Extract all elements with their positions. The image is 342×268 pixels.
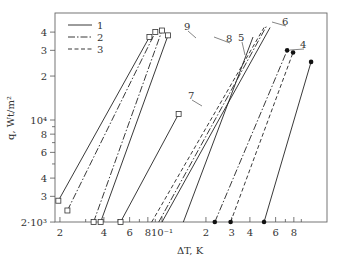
svg-text:7: 7	[188, 90, 194, 101]
svg-text:2: 2	[57, 227, 63, 238]
series-line	[94, 31, 162, 223]
svg-text:8: 8	[226, 33, 232, 44]
svg-text:3: 3	[41, 191, 47, 202]
series-line	[162, 28, 270, 223]
svg-text:2: 2	[97, 32, 103, 43]
svg-text:4: 4	[101, 227, 107, 238]
svg-text:6: 6	[41, 147, 47, 158]
svg-text:9: 9	[184, 21, 190, 32]
svg-text:6: 6	[126, 227, 132, 238]
svg-text:3: 3	[97, 44, 103, 55]
svg-text:10⁴: 10⁴	[30, 115, 47, 126]
svg-text:10⁻¹: 10⁻¹	[151, 227, 173, 238]
series-line	[152, 28, 264, 223]
y-axis-label: q, Wt/m²	[5, 96, 16, 140]
series-line	[121, 114, 179, 222]
svg-text:4: 4	[300, 39, 306, 50]
svg-text:2: 2	[41, 71, 47, 82]
svg-text:2·10³: 2·10³	[21, 217, 47, 228]
series-line	[264, 62, 311, 222]
legend: 123	[68, 20, 103, 55]
series-line	[215, 50, 287, 222]
data-lines	[56, 26, 314, 224]
svg-text:5: 5	[238, 32, 244, 43]
svg-text:2: 2	[203, 227, 209, 238]
svg-text:6: 6	[272, 227, 278, 238]
svg-text:3: 3	[228, 227, 234, 238]
svg-text:3: 3	[41, 45, 47, 56]
x-axis-label: ΔT, K	[177, 245, 204, 256]
chart: 246810⁻¹23468 2·10³346810⁴234 123 987564…	[0, 0, 342, 268]
svg-text:4: 4	[41, 173, 47, 184]
series-line	[231, 52, 293, 222]
series-line	[67, 32, 155, 210]
plot-frame	[55, 13, 327, 222]
svg-text:8: 8	[291, 227, 297, 238]
svg-text:8: 8	[41, 129, 47, 140]
svg-text:4: 4	[247, 227, 253, 238]
y-axis-ticks: 2·10³346810⁴234	[21, 27, 55, 228]
annotations: 987564	[184, 16, 306, 106]
series-line	[58, 37, 149, 201]
svg-text:1: 1	[97, 20, 103, 31]
series-line	[159, 26, 267, 222]
series-line	[183, 37, 253, 222]
svg-text:4: 4	[41, 27, 47, 38]
